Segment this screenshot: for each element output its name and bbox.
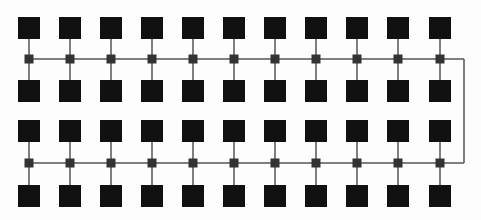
switch-square: [148, 55, 157, 64]
switch-square: [107, 55, 116, 64]
switch-square: [312, 159, 321, 168]
node-square: [387, 17, 409, 39]
node-square: [223, 185, 245, 207]
switch-square: [436, 159, 445, 168]
switch-square: [107, 159, 116, 168]
node-square: [59, 80, 81, 102]
switch-square: [312, 55, 321, 64]
node-square: [223, 80, 245, 102]
node-square: [264, 185, 286, 207]
node-square: [59, 120, 81, 142]
node-square: [429, 80, 451, 102]
node-square: [18, 185, 40, 207]
node-square: [182, 80, 204, 102]
node-square: [429, 17, 451, 39]
node-square: [305, 17, 327, 39]
switch-square: [189, 159, 198, 168]
switch-square: [230, 159, 239, 168]
node-square: [141, 17, 163, 39]
node-square: [223, 17, 245, 39]
node-square: [387, 80, 409, 102]
node-square: [141, 120, 163, 142]
switch-square: [66, 159, 75, 168]
node-square: [18, 80, 40, 102]
switch-square: [353, 159, 362, 168]
node-square: [59, 185, 81, 207]
topology-canvas: [0, 0, 481, 220]
node-square: [141, 185, 163, 207]
switch-square: [148, 159, 157, 168]
node-square: [141, 80, 163, 102]
switch-square: [66, 55, 75, 64]
node-square: [100, 80, 122, 102]
node-square: [346, 17, 368, 39]
node-square: [100, 120, 122, 142]
node-square: [346, 185, 368, 207]
switch-square: [230, 55, 239, 64]
node-square: [387, 120, 409, 142]
node-square: [100, 185, 122, 207]
node-square: [223, 120, 245, 142]
node-square: [429, 185, 451, 207]
node-square: [18, 120, 40, 142]
node-square: [346, 120, 368, 142]
node-square: [264, 80, 286, 102]
switch-square: [189, 55, 198, 64]
node-square: [182, 120, 204, 142]
node-square: [59, 17, 81, 39]
node-square: [264, 120, 286, 142]
node-square: [18, 17, 40, 39]
switch-square: [25, 159, 34, 168]
switch-square: [394, 159, 403, 168]
node-square: [305, 120, 327, 142]
node-square: [387, 185, 409, 207]
node-square: [182, 17, 204, 39]
topology-diagram: [0, 0, 481, 220]
node-square: [182, 185, 204, 207]
node-square: [429, 120, 451, 142]
node-square: [100, 17, 122, 39]
node-square: [305, 80, 327, 102]
switch-square: [353, 55, 362, 64]
switch-square: [271, 55, 280, 64]
switch-square: [271, 159, 280, 168]
node-square: [305, 185, 327, 207]
switch-square: [25, 55, 34, 64]
switch-square: [394, 55, 403, 64]
node-square: [264, 17, 286, 39]
node-square: [346, 80, 368, 102]
switch-square: [436, 55, 445, 64]
